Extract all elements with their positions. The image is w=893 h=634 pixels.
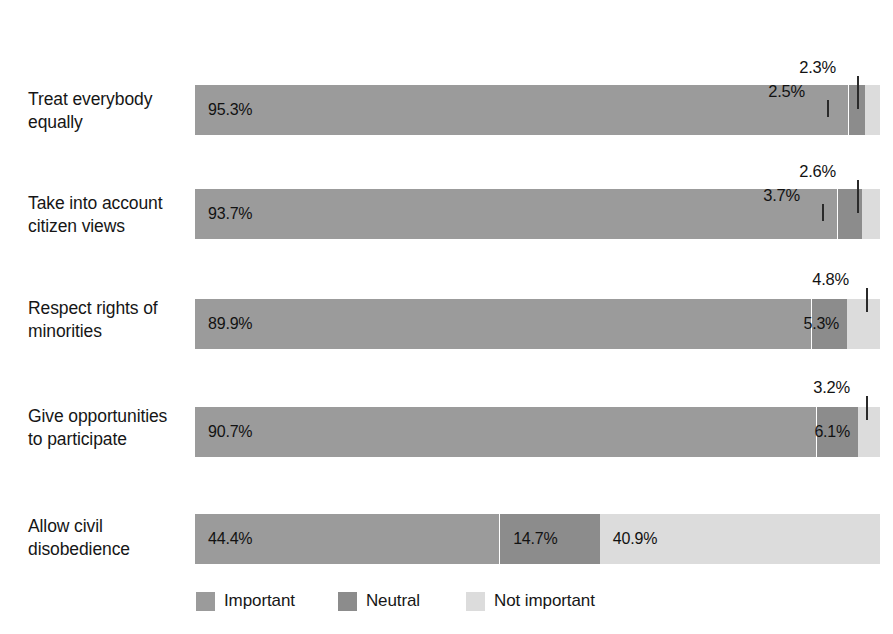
bar-allow-civil-disobedience: 44.4% 14.7% 40.9% [195, 514, 880, 564]
segment-not-important[interactable]: 40.9% [600, 514, 880, 564]
callout-value-neutral: 2.5% [768, 82, 805, 101]
leader-line-neutral [822, 204, 824, 221]
segment-not-important[interactable] [858, 407, 880, 457]
segment-neutral[interactable]: 14.7% [499, 514, 600, 564]
row-label-give-opportunities-to-participate: Give opportunities to participate [28, 405, 188, 451]
segment-important[interactable]: 44.4% [195, 514, 499, 564]
segment-value-important: 89.9% [208, 315, 252, 333]
legend-label-important: Important [224, 591, 295, 611]
callout-value-not-important: 4.8% [812, 270, 849, 289]
legend-label-not-important: Not important [494, 591, 595, 611]
leader-line-not-important [857, 180, 859, 213]
row-label-allow-civil-disobedience: Allow civil disobedience [28, 515, 188, 561]
segment-value-neutral: 6.1% [814, 423, 850, 441]
leader-line-not-important [866, 396, 868, 420]
segment-not-important[interactable] [847, 299, 880, 349]
segment-neutral[interactable]: 5.3% [811, 299, 847, 349]
segment-important[interactable]: 90.7% [195, 407, 816, 457]
segment-important[interactable]: 95.3% [195, 85, 848, 135]
stacked-bar-chart: Treat everybody equally 95.3% 2.3% 2.5% … [0, 0, 893, 634]
legend-swatch-not-important-icon [466, 592, 485, 611]
segment-value-not-important: 40.9% [613, 530, 657, 548]
leader-line-not-important [857, 76, 859, 109]
segment-value-important: 93.7% [208, 205, 252, 223]
segment-important[interactable]: 93.7% [195, 189, 837, 239]
segment-neutral[interactable]: 6.1% [816, 407, 858, 457]
segment-not-important[interactable] [862, 189, 880, 239]
segment-value-important: 90.7% [208, 423, 252, 441]
leader-line-not-important [866, 288, 868, 312]
bar-respect-rights-of-minorities: 89.9% 5.3% [195, 299, 880, 349]
segment-important[interactable]: 89.9% [195, 299, 811, 349]
bar-give-opportunities-to-participate: 90.7% 6.1% [195, 407, 880, 457]
legend-label-neutral: Neutral [366, 591, 420, 611]
chart-legend: Important Neutral Not important [196, 589, 595, 613]
segment-value-important: 44.4% [208, 530, 252, 548]
leader-line-neutral [827, 100, 829, 117]
row-label-respect-rights-of-minorities: Respect rights of minorities [28, 297, 188, 343]
segment-value-neutral: 5.3% [803, 315, 839, 333]
callout-value-not-important: 2.3% [799, 58, 836, 77]
callout-value-not-important: 2.6% [799, 162, 836, 181]
callout-value-neutral: 3.7% [763, 186, 800, 205]
segment-value-neutral: 14.7% [513, 530, 557, 548]
segment-not-important[interactable] [865, 85, 880, 135]
legend-swatch-neutral-icon [338, 592, 357, 611]
legend-item-important[interactable]: Important [196, 591, 295, 611]
legend-item-not-important[interactable]: Not important [466, 591, 595, 611]
legend-swatch-important-icon [196, 592, 215, 611]
legend-item-neutral[interactable]: Neutral [338, 591, 420, 611]
segment-value-important: 95.3% [208, 101, 252, 119]
row-label-treat-everybody-equally: Treat everybody equally [28, 88, 188, 134]
callout-value-not-important: 3.2% [813, 378, 850, 397]
row-label-take-into-account-citizen-views: Take into account citizen views [28, 192, 188, 238]
